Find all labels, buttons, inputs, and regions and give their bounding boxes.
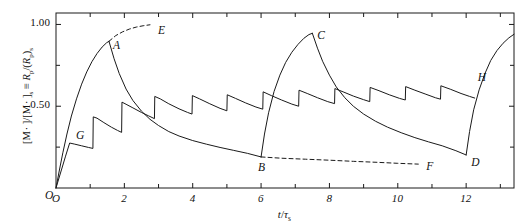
y-title-sub-p1: p <box>27 71 35 75</box>
y-title-slash: /( <box>21 64 32 70</box>
y-title-R2: R <box>21 58 32 64</box>
x-tick-label-4: 4 <box>190 192 196 204</box>
annotation-label-A: A <box>113 39 120 51</box>
series-decay-branch-2 <box>312 33 466 155</box>
series-ideal-dashed-lower <box>261 157 418 164</box>
x-tick-label-12: 12 <box>460 192 471 204</box>
data-series-group <box>56 25 514 188</box>
annotation-label-B: B <box>258 161 265 173</box>
annotation-label-H: H <box>478 71 486 83</box>
x-axis-title: t/τs <box>278 208 291 221</box>
annotation-label-E: E <box>158 24 165 36</box>
y-title-close1: ]/[M <box>21 105 32 127</box>
axis-frame <box>56 13 514 188</box>
x-tick-label-6: 6 <box>258 192 264 204</box>
y-title-sub-s1: s <box>27 92 35 95</box>
annotation-label-C: C <box>317 29 325 41</box>
y-title-close3: ) <box>21 51 32 55</box>
annotation-label-O: O <box>45 189 53 201</box>
y-title-sub-s2: s <box>27 48 35 51</box>
y-title-dot2: · <box>21 101 32 105</box>
y-title-equiv: ≡ <box>21 83 32 89</box>
series-growth-branch-3 <box>466 34 514 155</box>
x-axis-title-sub: s <box>288 214 291 221</box>
figure-container: 1.00 0.50 O 2 4 6 8 10 12 O G A E B C F … <box>0 0 523 221</box>
y-title-dot1: · <box>21 127 32 131</box>
y-title-open1: [M <box>21 131 32 144</box>
series-growth-branch-1 <box>56 41 109 188</box>
annotation-label-F: F <box>426 160 433 172</box>
x-tick-label-10: 10 <box>392 192 403 204</box>
chart-plot-area <box>0 0 523 221</box>
x-tick-label-8: 8 <box>326 192 332 204</box>
series-growth-branch-2 <box>261 33 312 157</box>
y-title-close2: ] <box>21 94 32 100</box>
annotation-label-D: D <box>471 156 479 168</box>
axis-ticks <box>56 13 514 188</box>
y-title-sub-p2: p <box>27 54 35 58</box>
annotation-label-G: G <box>76 129 84 141</box>
x-tick-label-2: 2 <box>121 192 127 204</box>
y-axis-title: [M · ]/[M · ]s ≡ Rp/(Rp)s <box>19 11 39 181</box>
y-axis-title-wrapper: [M · ]/[M · ]s ≡ Rp/(Rp)s <box>19 11 35 181</box>
y-title-R1: R <box>21 74 32 80</box>
